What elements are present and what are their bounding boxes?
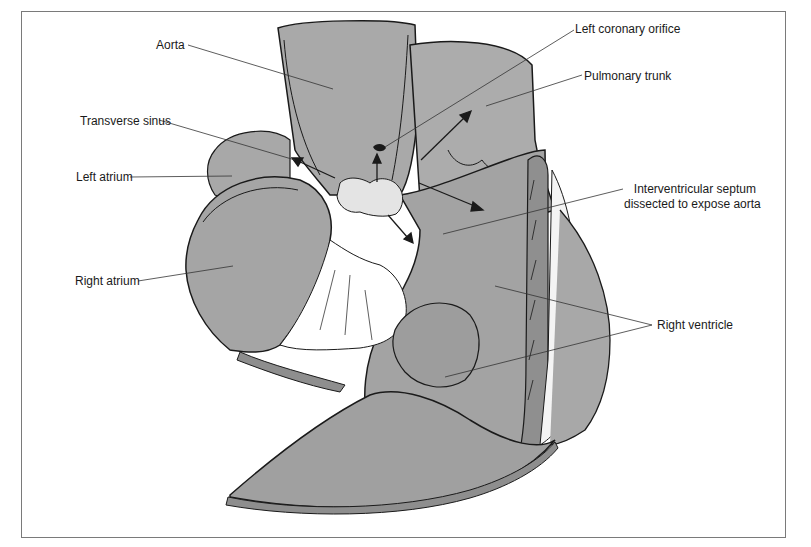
label-interventricular-septum-line1: Interventricular septum xyxy=(624,182,761,197)
label-aorta: Aorta xyxy=(156,38,185,53)
label-left-atrium: Left atrium xyxy=(76,170,133,185)
label-interventricular-septum-line2: dissected to expose aorta xyxy=(624,197,761,212)
aorta-shape xyxy=(278,21,418,195)
label-left-coronary-orifice: Left coronary orifice xyxy=(575,22,680,37)
label-right-ventricle: Right ventricle xyxy=(657,318,733,333)
label-transverse-sinus: Transverse sinus xyxy=(80,114,171,129)
aortic-valve-tissue xyxy=(337,178,403,216)
label-pulmonary-trunk: Pulmonary trunk xyxy=(584,69,671,84)
label-right-atrium: Right atrium xyxy=(75,274,140,289)
atrial-cut-edge xyxy=(237,352,345,392)
label-interventricular-septum: Interventricular septum dissected to exp… xyxy=(624,182,761,212)
